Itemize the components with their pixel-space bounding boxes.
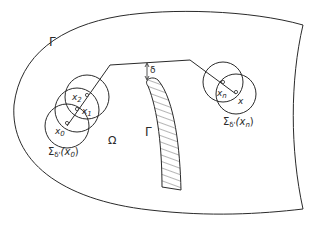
label-x1: x1	[81, 106, 92, 118]
domain-diagram: Γ Γ Ω δ x2 x1 x0 xn x Σδ'(x0) Σδ'(xn)	[0, 0, 318, 231]
sigma-xn-label: Σδ'(xn)	[223, 116, 254, 129]
point-x1	[75, 107, 78, 110]
point-x2	[85, 93, 88, 96]
point-xn	[221, 80, 224, 83]
label-xn: xn	[216, 88, 227, 100]
delta-label: δ	[150, 65, 156, 75]
boundary-label: Γ	[49, 35, 56, 49]
domain-label: Ω	[108, 134, 116, 147]
label-x: x	[237, 96, 244, 106]
point-x	[234, 90, 237, 93]
sigma-x0-label: Σδ'(x0)	[48, 146, 79, 159]
label-x2: x2	[71, 92, 82, 104]
obstacle-label: Γ	[145, 125, 152, 139]
obstacle	[147, 78, 181, 190]
point-x0	[65, 121, 68, 124]
